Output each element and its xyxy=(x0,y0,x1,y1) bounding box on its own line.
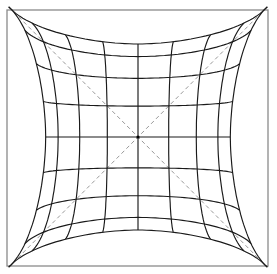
grid-line-vertical xyxy=(9,7,46,267)
grid-line-horizontal xyxy=(9,230,268,267)
pincushion-distortion-diagram xyxy=(0,0,277,274)
center-point xyxy=(136,135,139,138)
grid-line-vertical xyxy=(230,7,267,267)
grid-line-horizontal xyxy=(9,7,268,44)
